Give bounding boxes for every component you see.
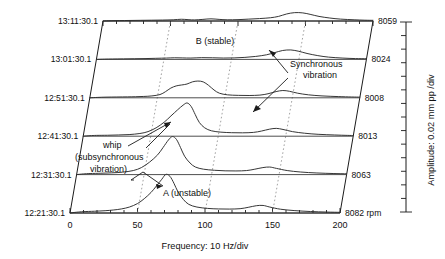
trace-rpm-label: 8024 bbox=[371, 54, 390, 64]
right-amplitude-axis bbox=[400, 22, 412, 212]
trace-time-label: 12:31:30.1 bbox=[31, 170, 72, 180]
annotation-synchronous-line1: Synchronous bbox=[290, 59, 343, 69]
x-axis-label: Frequency: 10 Hz/div bbox=[162, 241, 249, 251]
trace-time-label: 12:51:30.1 bbox=[44, 93, 85, 103]
trace-time-label: 13:01:30.1 bbox=[51, 54, 92, 64]
order-line bbox=[138, 21, 171, 213]
waterfall-chart-figure: 050100150200 13:11:30.113:01:30.112:51:3… bbox=[0, 0, 445, 259]
spectrum-trace bbox=[96, 50, 366, 59]
annotation-whip-line2: (subsynchronous bbox=[75, 152, 144, 162]
annotation-synchronous-line2: vibration bbox=[303, 70, 337, 80]
trace-rpm-label: 8063 bbox=[352, 170, 371, 180]
annotation-whip-line3: vibration) bbox=[90, 164, 127, 174]
trace-rpm-label: 8008 bbox=[365, 93, 384, 103]
annotation-whip-line1: whip bbox=[102, 140, 122, 150]
trace-rpm-label: 8082 rpm bbox=[345, 208, 381, 218]
annotation-leaders bbox=[128, 50, 288, 189]
trace-time-label: 13:11:30.1 bbox=[58, 16, 98, 26]
order-lines-group bbox=[138, 21, 306, 213]
trace-time-label: 12:41:30.1 bbox=[38, 131, 79, 141]
annotation-a-unstable: A (unstable) bbox=[163, 188, 211, 198]
whip-leader-lower2 bbox=[143, 172, 163, 186]
x-tick-label: 100 bbox=[197, 220, 212, 230]
x-tick-label-group: 050100150200 bbox=[67, 220, 347, 230]
right-axis-line bbox=[340, 21, 373, 213]
whip-leader-lower bbox=[131, 172, 143, 180]
amplitude-tick-group bbox=[401, 36, 406, 199]
annotation-b-stable: B (stable) bbox=[196, 36, 235, 46]
amplitude-axis-label: Amplitude: 0.02 mm pp /div bbox=[426, 74, 436, 186]
trace-rpm-label: 8059 bbox=[378, 16, 397, 26]
order-line bbox=[205, 21, 238, 213]
time-label-group: 13:11:30.113:01:30.112:51:30.112:41:30.1… bbox=[24, 16, 98, 218]
left-axis-line bbox=[70, 21, 103, 213]
rpm-label-group: 805980248008801380638082 rpm bbox=[345, 16, 397, 218]
x-tick-label: 0 bbox=[67, 220, 72, 230]
trace-time-label: 12:21:30.1 bbox=[24, 208, 65, 218]
spectrum-trace bbox=[83, 103, 353, 136]
x-tick-label: 150 bbox=[265, 220, 280, 230]
x-tick-label: 200 bbox=[332, 220, 347, 230]
trace-rpm-label: 8013 bbox=[358, 131, 377, 141]
spectrum-trace bbox=[90, 81, 360, 98]
spectrum-trace bbox=[103, 13, 373, 21]
synchronous-arrowhead-lower bbox=[253, 105, 261, 112]
waterfall-plot-svg: 050100150200 13:11:30.113:01:30.112:51:3… bbox=[0, 0, 445, 259]
top-axis-ticks bbox=[103, 21, 373, 26]
x-tick-label: 50 bbox=[132, 220, 142, 230]
